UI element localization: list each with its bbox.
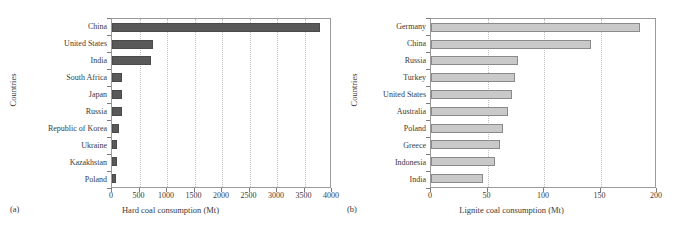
category-label: China (359, 35, 429, 52)
y-tick (426, 171, 430, 172)
panel-b-tag: (b) (347, 204, 357, 214)
category-label: United States (20, 35, 110, 52)
bar (431, 124, 503, 133)
bar-row (431, 103, 655, 120)
y-tick (426, 52, 430, 53)
bar-row (112, 69, 330, 86)
bar-row (431, 137, 655, 154)
x-tick-label: 200 (650, 191, 662, 200)
y-tick (107, 103, 111, 104)
bar (112, 73, 122, 82)
y-tick (426, 154, 430, 155)
bar (431, 107, 508, 116)
category-label: Republic of Korea (20, 120, 110, 137)
bar-row (112, 53, 330, 70)
x-tick-label: 2500 (241, 191, 257, 200)
y-tick (426, 137, 430, 138)
category-label: Indonesia (359, 154, 429, 171)
category-label: Ukraine (20, 137, 110, 154)
panel-a-y-axis-title: Countries (6, 0, 20, 180)
bar-row (112, 153, 330, 170)
x-tick-label: 3000 (268, 191, 284, 200)
x-tick-label: 1500 (186, 191, 202, 200)
panel-b-x-axis-title: Lignite coal consumption (Mt) (341, 205, 682, 215)
y-tick (426, 120, 430, 121)
bar-row (431, 120, 655, 137)
category-label: Russia (20, 103, 110, 120)
y-tick (107, 52, 111, 53)
bar-row (112, 19, 330, 36)
bar-row (112, 137, 330, 154)
bar (112, 157, 117, 166)
y-tick (107, 120, 111, 121)
category-label: Germany (359, 18, 429, 35)
bar (112, 174, 116, 183)
y-tick (107, 137, 111, 138)
panel-b-category-labels: GermanyChinaRussiaTurkeyUnited StatesAus… (359, 18, 429, 188)
panel-b-lignite-coal: Countries GermanyChinaRussiaTurkeyUnited… (341, 0, 682, 228)
bar-row (431, 19, 655, 36)
bar (431, 140, 500, 149)
bar (112, 56, 151, 65)
y-tick (107, 171, 111, 172)
bar (112, 90, 122, 99)
x-tick-label: 0 (109, 191, 113, 200)
x-tick-label: 1000 (158, 191, 174, 200)
bar-row (431, 36, 655, 53)
panel-a-category-labels: ChinaUnited StatesIndiaSouth AfricaJapan… (20, 18, 110, 188)
y-tick (426, 18, 430, 19)
category-label: China (20, 18, 110, 35)
panel-a-x-axis-title: Hard coal consumption (Mt) (0, 205, 341, 215)
panel-a-hard-coal: Countries ChinaUnited StatesIndiaSouth A… (0, 0, 341, 228)
y-tick (426, 86, 430, 87)
category-label: Russia (359, 52, 429, 69)
y-tick (426, 103, 430, 104)
category-label: Greece (359, 137, 429, 154)
bar (431, 40, 591, 49)
y-tick (426, 188, 430, 189)
x-tick-label: 500 (133, 191, 145, 200)
panel-b-x-tick-labels: 050100150200 (430, 191, 656, 203)
category-label: South Africa (20, 69, 110, 86)
bar-row (112, 103, 330, 120)
panel-b-bars (431, 19, 655, 187)
panel-a-plot-area (111, 18, 331, 188)
y-tick (107, 188, 111, 189)
category-label: Poland (359, 120, 429, 137)
bar-row (431, 53, 655, 70)
bar-row (431, 170, 655, 187)
y-tick (107, 86, 111, 87)
bar (431, 90, 512, 99)
x-tick-label: 4000 (323, 191, 339, 200)
category-label: Australia (359, 103, 429, 120)
category-label: Kazakhstan (20, 154, 110, 171)
panel-a-tag: (a) (10, 204, 19, 214)
x-tick-label: 3500 (296, 191, 312, 200)
category-label: Turkey (359, 69, 429, 86)
bar (112, 140, 117, 149)
bar (112, 23, 320, 32)
category-label: Japan (20, 86, 110, 103)
category-label: United States (359, 86, 429, 103)
x-tick-label: 2000 (213, 191, 229, 200)
category-label: Poland (20, 171, 110, 188)
y-tick (107, 154, 111, 155)
bar (431, 73, 515, 82)
y-tick (107, 18, 111, 19)
y-tick (107, 35, 111, 36)
panel-a-bars (112, 19, 330, 187)
panel-b-plot-area (430, 18, 656, 188)
bar-row (431, 69, 655, 86)
y-tick (426, 69, 430, 70)
bar-row (431, 86, 655, 103)
y-tick (426, 35, 430, 36)
bar (431, 174, 483, 183)
bar-row (112, 170, 330, 187)
x-tick-label: 50 (483, 191, 491, 200)
x-tick-label: 150 (594, 191, 606, 200)
x-tick-label: 0 (428, 191, 432, 200)
bar-row (431, 153, 655, 170)
y-tick (107, 69, 111, 70)
category-label: India (359, 171, 429, 188)
bar-row (112, 120, 330, 137)
